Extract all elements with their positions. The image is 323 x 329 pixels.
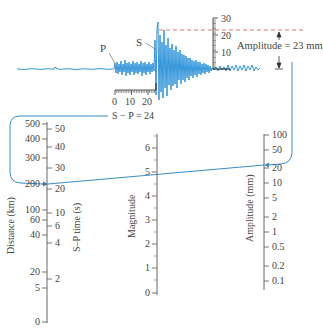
sp-tick-2: 2 [55, 273, 60, 284]
sp-axis-ticks [47, 129, 52, 279]
time-scale [115, 83, 156, 95]
sp-tick-6: 6 [55, 220, 60, 231]
p-wave-label: P [100, 42, 106, 54]
sp-tick-40: 40 [55, 141, 65, 152]
sp-tick-50: 50 [55, 123, 65, 134]
distance-tick-20: 20 [30, 266, 40, 277]
magnitude-tick-1: 1 [145, 262, 150, 273]
magnitude-reading-line [48, 165, 264, 184]
amp-scale-20: 20 [221, 30, 231, 41]
time-scale-0: 0 [112, 96, 117, 107]
amp-scale-10: 10 [221, 47, 231, 58]
magnitude-tick-6: 6 [145, 142, 150, 153]
amplitude-tick-0-1: 0.1 [272, 275, 285, 286]
amplitude-annotation: Amplitude = 23 mm [237, 40, 323, 51]
magnitude-axis-ticks [152, 136, 157, 293]
magnitude-tick-0: 0 [145, 287, 150, 298]
distance-axis-ticks [42, 124, 47, 322]
amp-scale-30: 30 [221, 13, 231, 24]
amplitude-tick-5: 5 [272, 192, 277, 203]
distance-tick-200: 200 [25, 178, 40, 189]
distance-tick-300: 300 [25, 152, 40, 163]
distance-tick-60: 60 [30, 214, 40, 225]
distance-tick-0: 0 [35, 316, 40, 327]
sp-tick-10: 10 [55, 207, 65, 218]
amplitude-tick-20: 20 [272, 162, 282, 173]
nomogram-figure: P S 30 20 10 Amplitude = 23 mm [0, 0, 323, 329]
amplitude-tick-0-2: 0.2 [272, 260, 285, 271]
distance-tick-400: 400 [25, 133, 40, 144]
amplitude-tick-0-5: 0.5 [272, 241, 285, 252]
sp-annotation: S − P = 24 [112, 110, 154, 121]
magnitude-axis-title: Magnitude [126, 194, 137, 238]
amplitude-tick-10: 10 [272, 177, 282, 188]
sp-tick-20: 20 [55, 183, 65, 194]
amplitude-tick-2: 2 [272, 211, 277, 222]
distance-tick-500: 500 [25, 118, 40, 129]
magnitude-tick-4: 4 [145, 190, 150, 201]
amplitude-axis-title: Amplitude (mm) [244, 175, 256, 243]
amplitude-connector-arrowhead [264, 163, 269, 168]
time-scale-20: 20 [142, 96, 152, 107]
magnitude-tick-3: 3 [145, 214, 150, 225]
amplitude-tick-50: 50 [272, 144, 282, 155]
distance-axis-title: Distance (km) [5, 197, 17, 254]
p-leader-line [109, 53, 115, 63]
amplitude-tick-100: 100 [272, 129, 287, 140]
magnitude-tick-2: 2 [145, 238, 150, 249]
amplitude-axis-ticks [264, 135, 269, 281]
s-leader-line [146, 43, 155, 49]
amplitude-tick-1: 1 [272, 226, 277, 237]
time-scale-10: 10 [125, 96, 135, 107]
sp-axis-title: S–P time (s) [71, 203, 83, 252]
sp-tick-4: 4 [55, 237, 60, 248]
s-wave-label: S [136, 36, 142, 48]
distance-tick-5: 5 [35, 282, 40, 293]
distance-tick-40: 40 [30, 229, 40, 240]
sp-tick-30: 30 [55, 162, 65, 173]
seismogram-amplitude-scale [213, 18, 230, 70]
magnitude-tick-5: 5 [145, 166, 150, 177]
